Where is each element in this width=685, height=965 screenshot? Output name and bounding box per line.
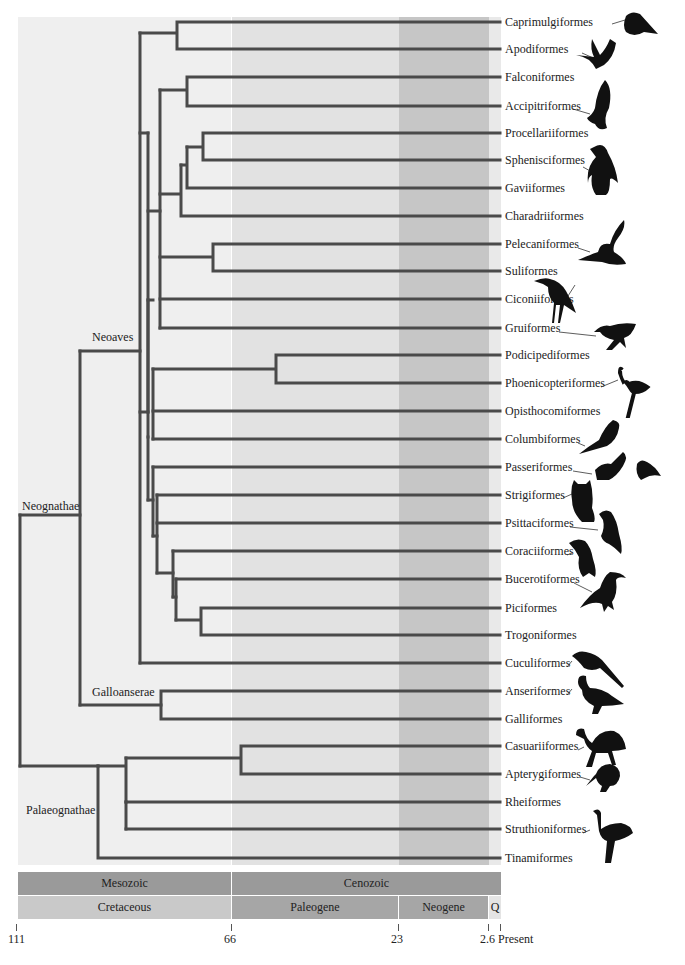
kiwi-silhouette-icon (584, 760, 624, 794)
clade-label-neognathae: Neognathae (22, 499, 79, 513)
clade-label-palaeognathae: Palaeognathae (26, 803, 95, 817)
leaf-label: Caprimulgiformes (505, 15, 593, 29)
tick-2-6 (488, 924, 489, 931)
leaf-label: Pelecaniformes (505, 237, 579, 251)
leaf-label: Tinamiformes (505, 851, 573, 865)
era-mesozoic: Mesozoic (18, 872, 231, 895)
period-paleogene: Paleogene (232, 896, 398, 919)
period-cretaceous: Cretaceous (18, 896, 231, 919)
leaf-label: Coraciiformes (505, 544, 574, 558)
leaf-label: Phoenicopteriformes (505, 376, 605, 390)
ostrich-silhouette-icon (589, 807, 635, 869)
leaf-label: Passeriformes (505, 460, 572, 474)
tick-label-2-6: 2.6 (480, 932, 495, 947)
hummingbird-silhouette-icon (574, 35, 620, 75)
tick-present (500, 924, 501, 931)
leaf-label: Gaviiformes (505, 181, 565, 195)
leaf-label: Sphenisciformes (505, 153, 585, 167)
leaf-label: Opisthocomiformes (505, 404, 600, 418)
leaf-label: Columbiformes (505, 432, 580, 446)
rail-silhouette-icon (592, 318, 640, 354)
tick-label-23: 23 (391, 932, 403, 947)
tick-23 (398, 924, 399, 931)
leaf-label: Struthioniformes (505, 822, 586, 836)
clade-label-galloanserae: Galloanserae (92, 685, 155, 699)
era-cenozoic: Cenozoic (232, 872, 501, 895)
leaf-label: Galliformes (505, 712, 562, 726)
tick-111 (16, 924, 17, 931)
period-quaternary: Q (489, 896, 501, 919)
pelican-silhouette-icon (576, 218, 628, 270)
leaf-label: Cuculiformes (505, 656, 570, 670)
clade-label-neoaves: Neoaves (92, 330, 133, 344)
leaf-label: Falconiformes (505, 70, 574, 84)
leaf-label: Casuariiformes (505, 739, 578, 753)
leaf-label: Psittaciformes (505, 516, 574, 530)
goose-silhouette-icon (572, 672, 626, 718)
tick-label-66: 66 (224, 932, 236, 947)
leaf-label: Anseriformes (505, 684, 570, 698)
leaf-label: Accipitriformes (505, 99, 581, 113)
leaf-label: Trogoniformes (505, 628, 577, 642)
heron-silhouette-icon (530, 275, 590, 327)
leaf-label: Podicipediformes (505, 348, 590, 362)
period-neogene: Neogene (399, 896, 488, 919)
leaf-label: Apodiformes (505, 42, 568, 56)
hornbill-silhouette-icon (578, 570, 628, 618)
tick-label-present: Present (498, 932, 533, 947)
owl-silhouette-icon (568, 478, 596, 524)
flamingo-silhouette-icon (615, 365, 655, 420)
nightjar-silhouette-icon (600, 8, 660, 38)
leaf-label: Apterygiformes (505, 767, 581, 781)
leaf-label: Rheiformes (505, 795, 561, 809)
leaf-label: Piciformes (505, 601, 557, 615)
leaf-label: Procellariiformes (505, 126, 588, 140)
leaf-label: Charadriiformes (505, 209, 584, 223)
tick-label-111: 111 (8, 932, 25, 947)
leaf-label: Strigiformes (505, 488, 565, 502)
eagle-silhouette-icon (583, 78, 613, 133)
songbird-silhouette-icon (589, 448, 669, 488)
penguin-silhouette-icon (586, 143, 620, 198)
tick-66 (231, 924, 232, 931)
